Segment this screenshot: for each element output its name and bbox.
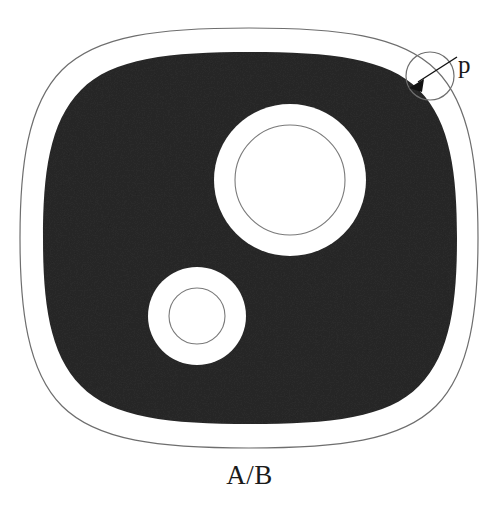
morphology-figure-svg [0,0,499,506]
figure-root: p A/B [0,0,499,506]
eroded-region-group [0,0,499,506]
eroded-region-fill [0,0,499,506]
